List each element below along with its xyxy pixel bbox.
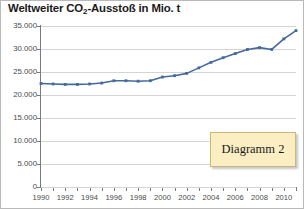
data-point-marker (270, 48, 273, 51)
chart-title-subscript: 2 (83, 7, 87, 16)
diagram-callout-box: Diagramm 2 (210, 132, 296, 167)
x-tick-mark (53, 188, 54, 191)
x-tick-mark (175, 188, 176, 191)
x-tick-mark (284, 188, 285, 191)
x-tick-mark (138, 188, 139, 191)
x-tick-mark (260, 188, 261, 191)
data-point-marker (125, 79, 128, 82)
data-point-marker (64, 83, 67, 86)
y-tick-label: 0 (1, 182, 37, 191)
x-tick-label: 2008 (251, 193, 268, 202)
chart-title-before: Weltweiter CO (8, 2, 83, 14)
series-polyline (41, 31, 296, 85)
x-tick-label: 2004 (203, 193, 220, 202)
x-tick-mark (296, 188, 297, 191)
x-tick-label: 2006 (227, 193, 244, 202)
y-tick-label: 10.000 (1, 136, 37, 145)
data-point-marker (197, 66, 200, 69)
x-tick-mark (126, 188, 127, 191)
x-tick-mark (211, 188, 212, 191)
y-tick-label: 5.000 (1, 159, 37, 168)
x-tick-label: 1990 (33, 193, 50, 202)
x-tick-label: 2010 (275, 193, 292, 202)
x-tick-mark (199, 188, 200, 191)
x-tick-mark (114, 188, 115, 191)
data-point-marker (173, 74, 176, 77)
x-tick-mark (272, 188, 273, 191)
x-tick-label: 1994 (81, 193, 98, 202)
gridline (41, 187, 296, 188)
x-tick-mark (223, 188, 224, 191)
diagram-callout-label: Diagramm 2 (222, 142, 285, 157)
data-point-marker (149, 79, 152, 82)
x-tick-mark (41, 188, 42, 191)
y-tick-label: 15.000 (1, 113, 37, 122)
data-point-marker (234, 52, 237, 55)
data-point-marker (258, 46, 261, 49)
chart-container: Weltweiter CO2-Ausstoß in Mio. t 05.0001… (0, 0, 304, 209)
data-point-marker (222, 56, 225, 59)
x-tick-mark (247, 188, 248, 191)
x-tick-label: 2000 (154, 193, 171, 202)
y-tick-label: 20.000 (1, 90, 37, 99)
data-point-marker (137, 80, 140, 83)
data-point-marker (210, 61, 213, 64)
data-point-marker (52, 83, 55, 86)
x-tick-mark (150, 188, 151, 191)
data-point-marker (295, 29, 298, 32)
x-tick-mark (102, 188, 103, 191)
data-point-marker (185, 72, 188, 75)
x-tick-mark (162, 188, 163, 191)
x-tick-mark (65, 188, 66, 191)
data-point-marker (40, 82, 43, 85)
x-tick-label: 1998 (130, 193, 147, 202)
y-tick-label: 35.000 (1, 21, 37, 30)
data-point-marker (161, 76, 164, 79)
data-point-marker (88, 83, 91, 86)
data-point-marker (246, 48, 249, 51)
data-point-marker (282, 37, 285, 40)
chart-title-after: -Ausstoß in Mio. t (87, 2, 180, 14)
y-tick-label: 25.000 (1, 67, 37, 76)
y-tick-label: 30.000 (1, 44, 37, 53)
data-point-marker (76, 83, 79, 86)
x-tick-label: 1996 (105, 193, 122, 202)
x-tick-label: 2002 (178, 193, 195, 202)
x-tick-mark (187, 188, 188, 191)
data-point-marker (112, 79, 115, 82)
x-tick-mark (77, 188, 78, 191)
x-tick-label: 1992 (57, 193, 74, 202)
x-tick-mark (235, 188, 236, 191)
x-tick-mark (90, 188, 91, 191)
data-point-marker (100, 82, 103, 85)
chart-title: Weltweiter CO2-Ausstoß in Mio. t (8, 2, 180, 14)
